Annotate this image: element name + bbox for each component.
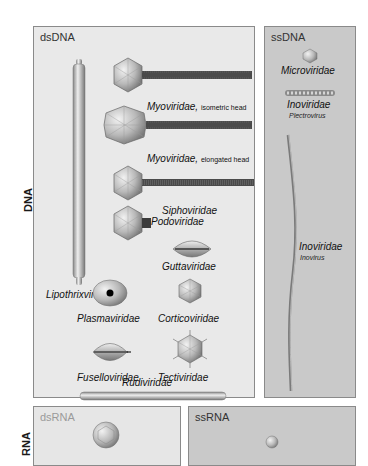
plasmaviridae-virion-icon (92, 279, 128, 307)
panel-dsrna: dsRNA (33, 406, 181, 466)
panel-label-dsrna: dsRNA (40, 411, 75, 423)
panel-ssdna: ssDNA Microviridae Inoviridae Plectrovir… (264, 26, 356, 398)
microviridae-virion-icon (301, 48, 319, 64)
inoviridae-plectrovirus-virion-icon (285, 90, 335, 96)
panel-label-ssdna: ssDNA (271, 31, 305, 43)
panel-dsdna: dsDNA Lipothrixviridae Myoviridae, isome… (33, 26, 255, 398)
label-rudiviridae-visible: Rudiviridae (122, 377, 172, 388)
label-podoviridae: Podoviridae (151, 216, 204, 227)
label-myoviridae-elongated: Myoviridae, elongated head (147, 153, 249, 164)
siphoviridae-virion-icon (110, 165, 258, 201)
label-corticoviridae: Corticoviridae (158, 313, 219, 324)
fuselloviridae-virion-icon (92, 341, 132, 363)
label-microviridae: Microviridae (281, 65, 335, 76)
ssrna-virion-icon (265, 435, 279, 449)
label-plectrovirus-genus: Plectrovirus (289, 112, 326, 119)
dsrna-virion-icon (92, 421, 120, 449)
label-plasmaviridae: Plasmaviridae (77, 313, 140, 324)
label-inoviridae-inovirus: Inoviridae (299, 241, 342, 252)
panel-label-ssrna: ssRNA (195, 411, 229, 423)
label-guttaviridae: Guttaviridae (162, 261, 216, 272)
lipothrixviridae-virion-icon (72, 59, 86, 285)
corticoviridae-virion-icon (176, 277, 204, 305)
myoviridae-isometric-virion-icon (110, 57, 256, 93)
myoviridae-elongated-virion-icon (102, 105, 256, 145)
panel-label-dsdna: dsDNA (40, 31, 75, 43)
tectiviridae-virion-icon (170, 329, 210, 369)
row-label-rna: RNA (20, 432, 32, 456)
panel-ssrna: ssRNA (188, 406, 356, 466)
inoviridae-inovirus-virion-icon (279, 133, 303, 393)
label-inovirus-genus: Inovirus (300, 254, 325, 261)
label-siphoviridae: Siphoviridae (162, 205, 217, 216)
rudiviridae-virion-icon (79, 391, 227, 401)
label-inoviridae-plectrovirus: Inoviridae (287, 99, 330, 110)
guttaviridae-virion-icon (172, 239, 212, 259)
